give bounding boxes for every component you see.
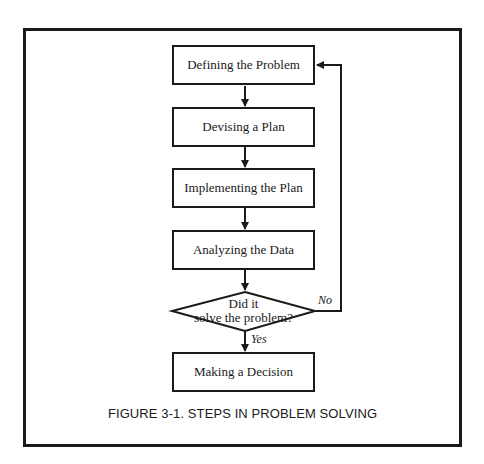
arrow-decision-no-loop bbox=[315, 65, 341, 311]
step-label: Devising a Plan bbox=[202, 119, 284, 135]
step-label: Analyzing the Data bbox=[193, 242, 294, 258]
decision-line-1: Did it bbox=[229, 297, 259, 311]
edge-label-yes: Yes bbox=[251, 332, 267, 347]
step-making-decision: Making a Decision bbox=[172, 352, 315, 392]
figure-caption: FIGURE 3-1. STEPS IN PROBLEM SOLVING bbox=[26, 406, 459, 421]
decision-text: Did it solve the problem? bbox=[172, 292, 315, 330]
step-devising-plan: Devising a Plan bbox=[172, 107, 315, 147]
step-implementing-plan: Implementing the Plan bbox=[172, 168, 315, 208]
edge-label-no: No bbox=[318, 293, 332, 308]
decision-line-2: solve the problem? bbox=[194, 311, 293, 325]
step-analyzing-data: Analyzing the Data bbox=[172, 230, 315, 270]
step-label: Making a Decision bbox=[194, 364, 293, 380]
step-label: Defining the Problem bbox=[187, 57, 300, 73]
step-label: Implementing the Plan bbox=[184, 180, 302, 196]
step-defining-problem: Defining the Problem bbox=[172, 45, 315, 85]
